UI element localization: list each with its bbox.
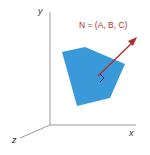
normal-vector-label: N = (A, B, C) [79,20,127,30]
z-axis [20,125,50,138]
y-axis-label: y [38,6,43,16]
z-axis-label: z [12,135,17,145]
plane-polygon [62,47,125,106]
x-axis-label: x [129,128,134,138]
diagram-canvas [0,0,150,155]
